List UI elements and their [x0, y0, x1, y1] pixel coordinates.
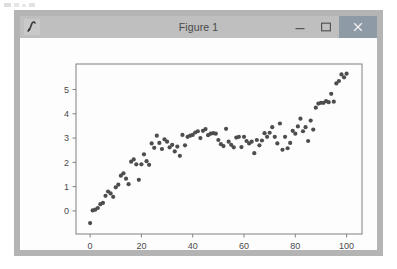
data-point	[137, 178, 141, 182]
x-tick-label: 40	[188, 241, 198, 250]
data-point	[280, 148, 284, 152]
data-point	[275, 141, 279, 145]
data-point	[180, 133, 184, 137]
data-point	[273, 135, 277, 139]
y-tick-label: 3	[64, 133, 69, 143]
data-point	[265, 135, 269, 139]
figure-canvas: 020406080100012345	[20, 38, 377, 250]
data-point	[221, 144, 225, 148]
data-point	[170, 143, 174, 147]
data-point	[124, 177, 128, 181]
data-point	[237, 135, 241, 139]
maximize-icon	[320, 21, 332, 33]
data-point	[134, 162, 138, 166]
desktop-artifact	[29, 3, 35, 7]
window-titlebar[interactable]: Figure 1	[20, 16, 377, 38]
data-point	[242, 135, 246, 139]
scatter-plot: 020406080100012345	[20, 38, 377, 250]
desktop-artifact	[22, 4, 26, 7]
data-point	[142, 152, 146, 156]
data-point	[278, 121, 282, 125]
data-point	[224, 127, 228, 131]
data-point	[144, 159, 148, 163]
desktop-artifact	[14, 3, 19, 7]
plot-svg: 020406080100012345	[20, 38, 377, 250]
desktop-background: Figure 1 020406080100012345	[0, 0, 397, 269]
data-point	[270, 125, 274, 129]
maximize-button[interactable]	[313, 16, 339, 38]
data-point	[286, 146, 290, 150]
data-point	[173, 149, 177, 153]
data-point	[260, 138, 264, 142]
scatter-points	[88, 72, 349, 226]
y-tick-label: 2	[64, 158, 69, 168]
data-point	[175, 144, 179, 148]
data-point	[139, 162, 143, 166]
data-point	[165, 140, 169, 144]
data-point	[293, 132, 297, 136]
data-point	[88, 221, 92, 225]
data-point	[111, 195, 115, 199]
data-point	[96, 206, 100, 210]
data-point	[232, 145, 236, 149]
minimize-icon	[294, 21, 306, 33]
data-point	[332, 100, 336, 104]
data-point	[309, 118, 313, 122]
y-tick-label: 4	[64, 109, 69, 119]
x-tick-label: 80	[290, 241, 300, 250]
data-point	[157, 141, 161, 145]
data-point	[257, 143, 261, 147]
x-tick-label: 60	[239, 241, 249, 250]
data-point	[345, 72, 349, 76]
data-point	[342, 75, 346, 79]
x-tick-label: 0	[88, 241, 93, 250]
data-point	[198, 136, 202, 140]
data-point	[160, 147, 164, 151]
data-point	[216, 138, 220, 142]
data-point	[311, 127, 315, 131]
data-point	[147, 163, 151, 167]
y-tick-label: 5	[64, 85, 69, 95]
close-button[interactable]	[339, 16, 377, 38]
data-point	[152, 146, 156, 150]
data-point	[252, 151, 256, 155]
data-point	[150, 141, 154, 145]
desktop-artifact	[4, 3, 11, 7]
data-point	[303, 125, 307, 129]
data-point	[132, 157, 136, 161]
data-point	[178, 154, 182, 158]
data-point	[214, 132, 218, 136]
data-point	[255, 138, 259, 142]
data-point	[196, 129, 200, 133]
figure-window: Figure 1 020406080100012345	[14, 10, 383, 256]
minimize-button[interactable]	[287, 16, 313, 38]
y-tick-label: 1	[64, 182, 69, 192]
data-point	[296, 124, 300, 128]
close-icon	[352, 21, 364, 33]
data-point	[301, 129, 305, 133]
data-point	[288, 141, 292, 145]
data-point	[109, 191, 113, 195]
data-point	[306, 139, 310, 143]
data-point	[103, 194, 107, 198]
data-point	[121, 171, 125, 175]
x-tick-label: 100	[339, 241, 354, 250]
data-point	[203, 127, 207, 131]
data-point	[337, 79, 341, 83]
data-point	[116, 183, 120, 187]
data-point	[239, 145, 243, 149]
y-tick-label: 0	[64, 206, 69, 216]
data-point	[262, 131, 266, 135]
data-point	[298, 117, 302, 121]
data-point	[329, 92, 333, 96]
data-point	[155, 134, 159, 138]
data-point	[268, 131, 272, 135]
x-tick-label: 20	[136, 241, 146, 250]
data-point	[101, 201, 105, 205]
data-point	[250, 140, 254, 144]
data-point	[126, 182, 130, 186]
data-point	[327, 100, 331, 104]
data-point	[283, 135, 287, 139]
data-point	[183, 143, 187, 147]
data-point	[314, 106, 318, 110]
